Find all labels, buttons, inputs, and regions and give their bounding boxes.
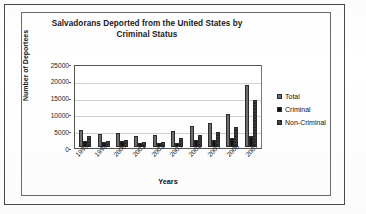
x-axis-tick-labels: 1998199920002001200220032004200520062007 [74,151,262,177]
legend-swatch-total [277,94,282,99]
bar-group-1998 [76,67,94,147]
bar-group-2002 [150,67,168,147]
plot-area [74,65,262,149]
x-axis-tick-2001: 2001 [130,151,149,177]
legend-swatch-noncriminal [277,120,282,125]
y-axis-tick-mark [69,149,71,150]
x-axis-tick-2004: 2004 [187,151,206,177]
plot-wrapper [74,65,262,149]
bar-group-2000 [113,67,131,147]
bar-group-2004 [186,67,204,147]
legend-item-total: Total [277,90,329,103]
legend-item-noncriminal: Non-Criminal [277,116,329,129]
y-axis-tick-5000: 5000 [54,129,69,136]
y-axis-tick-labels: 0500010000150002000025000 [40,61,71,153]
bar-group-2003 [168,67,186,147]
bar-group-2005 [205,67,223,147]
bar-series-container [76,67,260,147]
x-axis-tick-2007: 2007 [243,151,262,177]
y-axis-tick-15000: 15000 [51,95,69,102]
y-axis-tick-mark [69,65,71,66]
x-axis-tick-2005: 2005 [206,151,225,177]
bar-group-2007 [242,67,260,147]
x-axis-tick-1998: 1998 [74,151,93,177]
x-axis-tick-2003: 2003 [168,151,187,177]
bar-group-2001 [131,67,149,147]
y-axis-tick-mark [69,115,71,116]
chart-legend: TotalCriminalNon-Criminal [275,88,329,131]
y-axis-tick-20000: 20000 [51,78,69,85]
y-axis-tick-10000: 10000 [51,112,69,119]
x-axis-tick-2006: 2006 [224,151,243,177]
y-axis-tick-mark [69,132,71,133]
bar-noncriminal-2007 [253,100,257,147]
legend-label-noncriminal: Non-Criminal [285,119,326,126]
legend-swatch-criminal [277,107,282,112]
document-page: Salvadorans Deported from the United Sta… [0,0,366,214]
legend-label-criminal: Criminal [285,106,311,113]
chart-title: Salvadorans Deported from the United Sta… [24,18,270,40]
x-axis-tick-2000: 2000 [112,151,131,177]
y-axis-title: Number of Deportees [22,20,29,112]
legend-item-criminal: Criminal [277,103,329,116]
y-axis-tick-mark [69,82,71,83]
y-axis-tick-25000: 25000 [51,62,69,69]
legend-label-total: Total [285,93,300,100]
bar-group-1999 [94,67,112,147]
x-axis-tick-1999: 1999 [93,151,112,177]
x-axis-title: Years [74,177,262,186]
y-axis-tick-mark [69,99,71,100]
bar-group-2006 [223,67,241,147]
chart-title-line-1: Salvadorans Deported from the United Sta… [24,18,270,29]
x-axis-tick-2002: 2002 [149,151,168,177]
chart-title-line-2: Criminal Status [24,29,270,40]
